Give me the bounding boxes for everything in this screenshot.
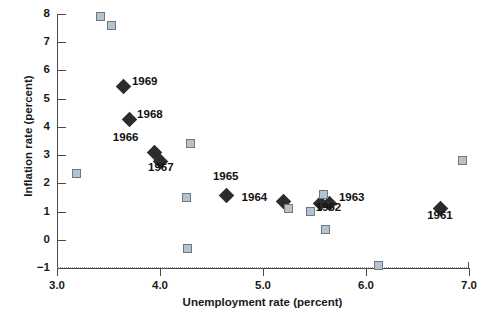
data-point-square <box>183 244 192 253</box>
x-tick-label: 6.0 <box>344 279 388 291</box>
x-tick-mark <box>469 268 470 276</box>
data-point-label: 1969 <box>132 75 158 87</box>
x-tick-label: 4.0 <box>138 279 182 291</box>
y-tick-mark <box>57 240 66 241</box>
y-tick-mark <box>57 212 66 213</box>
data-point-label: 1966 <box>113 131 139 143</box>
y-tick-label: −1 <box>24 262 50 273</box>
data-point-square <box>186 139 195 148</box>
data-point-square <box>374 261 383 270</box>
y-tick-mark <box>57 127 66 128</box>
data-point-square <box>321 225 330 234</box>
data-point-square <box>319 190 328 199</box>
data-point-label: 1961 <box>427 209 453 221</box>
y-tick-mark <box>57 155 66 156</box>
y-tick-mark <box>57 268 66 269</box>
y-tick-mark <box>57 70 66 71</box>
data-point-square <box>284 204 293 213</box>
y-tick-mark <box>57 183 66 184</box>
x-axis-title: Unemployment rate (percent) <box>0 296 499 308</box>
x-tick-label: 3.0 <box>35 279 79 291</box>
data-point-square <box>96 12 105 21</box>
data-point-square <box>107 21 116 30</box>
y-tick-label: 0 <box>24 234 50 245</box>
data-point-label: 1963 <box>339 191 365 203</box>
data-point-label: 1968 <box>137 108 163 120</box>
x-tick-mark <box>160 268 161 276</box>
data-point-square <box>306 207 315 216</box>
x-tick-mark <box>57 268 58 276</box>
y-tick-mark <box>57 42 66 43</box>
data-point-square <box>72 169 81 178</box>
y-tick-label: 8 <box>24 8 50 19</box>
x-tick-mark <box>263 268 264 276</box>
data-point-label: 1965 <box>213 170 239 182</box>
y-tick-mark <box>57 99 66 100</box>
data-point-square <box>458 156 467 165</box>
x-tick-label: 7.0 <box>447 279 491 291</box>
x-tick-label: 5.0 <box>241 279 285 291</box>
scatter-chart: 876543210−1 3.04.05.06.07.0 196919681966… <box>0 0 499 317</box>
x-tick-mark <box>366 268 367 276</box>
data-point-square <box>182 193 191 202</box>
data-point-label: 1964 <box>242 191 268 203</box>
y-tick-mark <box>57 14 66 15</box>
data-point-label: 1967 <box>148 161 174 173</box>
y-axis-title: Inflation rate (percent) <box>22 46 34 226</box>
data-point-label: 1962 <box>316 201 342 213</box>
